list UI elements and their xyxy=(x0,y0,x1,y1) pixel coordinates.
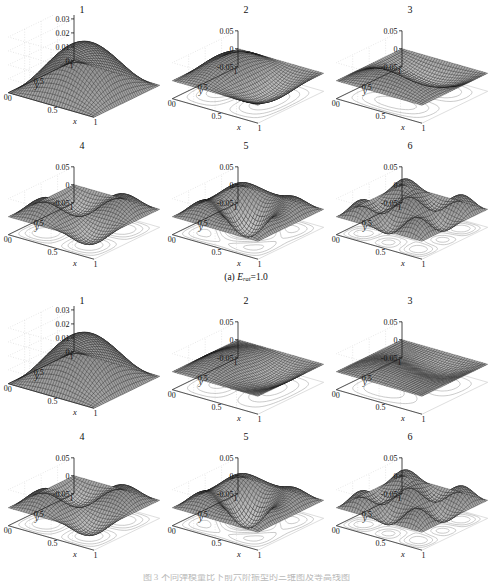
z-tick-label: 0.01 xyxy=(56,43,70,52)
bottom-caption-strip: 图 3 不同弹模量比下前六阶振型的三维图及等高线图 xyxy=(0,574,492,582)
x-tick-label: 1 xyxy=(258,415,262,424)
y-axis-label: y xyxy=(34,371,39,381)
z-tick-label: 0.05 xyxy=(384,27,398,36)
y-axis-label: y xyxy=(362,86,367,96)
y-tick-label: 1 xyxy=(70,61,74,70)
x-tick-label: 1 xyxy=(422,551,426,560)
subplot-b-6: 60.050-0.0510.5000.51yx xyxy=(328,431,492,566)
z-tick-label: 0.05 xyxy=(220,163,234,172)
x-tick-label: 1 xyxy=(422,260,426,269)
z-tick-label: 0.03 xyxy=(56,15,70,24)
y-axis-label: y xyxy=(198,222,203,232)
y-axis-label: y xyxy=(362,513,367,523)
z-tick-label: 0.01 xyxy=(56,334,70,343)
subplot-b-3: 30.050-0.0510.5000.51yx xyxy=(328,295,492,430)
x-tick-label: 0.5 xyxy=(212,539,222,548)
subplot-b-2: 20.050-0.0510.5000.51yx xyxy=(164,295,328,430)
surface-plot-canvas: 0.050-0.0510.5000.51yx xyxy=(164,306,328,430)
y-tick-label: 1 xyxy=(398,358,402,367)
z-tick-label: 0.05 xyxy=(220,454,234,463)
y-axis-label: y xyxy=(198,377,203,387)
z-tick-label: 0 xyxy=(66,472,70,481)
caption-subscript-a: rat xyxy=(243,275,251,282)
x-tick-label: 0.5 xyxy=(376,539,386,548)
z-tick-label: 0.05 xyxy=(384,318,398,327)
z-tick-label: 0 xyxy=(66,181,70,190)
surface-plot-canvas: 0.050-0.0510.5000.51yx xyxy=(328,442,492,566)
bottom-caption-text: 图 3 不同弹模量比下前六阶振型的三维图及等高线图 xyxy=(0,574,492,582)
x-tick-label: 0 xyxy=(336,527,340,536)
z-tick-label: 0 xyxy=(230,45,234,54)
x-tick-label: 1 xyxy=(258,260,262,269)
subplot-a-1: 10.040.030.020.01010.5000.51yx xyxy=(0,4,164,139)
x-tick-label: 0 xyxy=(172,391,176,400)
z-tick-label: -0.05 xyxy=(217,490,234,499)
x-tick-label: 0.5 xyxy=(212,403,222,412)
subplot-a-3: 30.050-0.0510.5000.51yx xyxy=(328,4,492,139)
y-tick-label: 1 xyxy=(398,67,402,76)
x-tick-label: 1 xyxy=(258,551,262,560)
x-tick-label: 0 xyxy=(172,527,176,536)
subplot-b-4: 40.050-0.0510.5000.51yx xyxy=(0,431,164,566)
y-tick-label: 1 xyxy=(398,203,402,212)
y-axis-label: y xyxy=(362,377,367,387)
x-tick-label: 1 xyxy=(422,415,426,424)
x-axis-label: x xyxy=(236,258,241,268)
y-axis-label: y xyxy=(198,86,203,96)
figure-panel-a: 10.040.030.020.01010.5000.51yx20.050-0.0… xyxy=(0,0,492,291)
x-tick-label: 0 xyxy=(336,391,340,400)
z-tick-label: -0.05 xyxy=(53,490,70,499)
x-tick-label: 1 xyxy=(94,551,98,560)
caption-prefix-a: (a) xyxy=(224,272,237,282)
y-tick-label: 1 xyxy=(234,67,238,76)
z-tick-label: 0.05 xyxy=(384,163,398,172)
y-tick-label: 1 xyxy=(70,494,74,503)
x-axis-label: x xyxy=(72,116,77,126)
x-axis-label: x xyxy=(400,258,405,268)
caption-value-a: =1.0 xyxy=(251,272,268,282)
y-tick-label: 1 xyxy=(234,494,238,503)
z-tick-label: 0 xyxy=(230,181,234,190)
y-axis-label: y xyxy=(34,80,39,90)
z-tick-label: 0.02 xyxy=(56,29,70,38)
z-tick-label: 0.05 xyxy=(56,163,70,172)
subplot-a-6: 60.050-0.0510.5000.51yx xyxy=(328,140,492,275)
x-axis-label: x xyxy=(236,549,241,559)
z-tick-label: 0 xyxy=(394,45,398,54)
z-tick-label: 0 xyxy=(394,472,398,481)
z-tick-label: -0.05 xyxy=(381,490,398,499)
surface-plot-canvas: 0.040.030.020.01010.5000.51yx xyxy=(0,15,164,139)
surface-plot-canvas: 0.050-0.0510.5000.51yx xyxy=(0,151,164,275)
x-tick-label: 0.5 xyxy=(212,112,222,121)
y-axis-label: y xyxy=(198,513,203,523)
z-tick-label: -0.05 xyxy=(381,63,398,72)
z-tick-label: 0.05 xyxy=(384,454,398,463)
x-tick-label: 1 xyxy=(94,118,98,127)
subplot-b-5: 50.050-0.0510.5000.51yx xyxy=(164,431,328,566)
x-axis-label: x xyxy=(400,413,405,423)
surface-plot-canvas: 0.050-0.0510.5000.51yx xyxy=(164,151,328,275)
x-tick-label: 0.5 xyxy=(376,403,386,412)
x-tick-label: 0.5 xyxy=(48,248,58,257)
x-tick-label: 0 xyxy=(336,236,340,245)
x-tick-label: 0 xyxy=(336,100,340,109)
z-tick-label: -0.05 xyxy=(217,354,234,363)
surface-plot-canvas: 0.050-0.0510.5000.51yx xyxy=(328,306,492,430)
x-tick-label: 0 xyxy=(8,527,12,536)
x-axis-label: x xyxy=(72,549,77,559)
subplot-grid-a: 10.040.030.020.01010.5000.51yx20.050-0.0… xyxy=(0,0,492,270)
x-tick-label: 1 xyxy=(258,124,262,133)
surface-plot-canvas: 0.050-0.0510.5000.51yx xyxy=(0,442,164,566)
y-tick-label: 1 xyxy=(398,494,402,503)
y-tick-label: 1 xyxy=(70,203,74,212)
y-tick-label: 1 xyxy=(234,358,238,367)
x-axis-label: x xyxy=(72,258,77,268)
x-axis-label: x xyxy=(400,549,405,559)
z-tick-label: -0.05 xyxy=(217,199,234,208)
z-tick-label: -0.05 xyxy=(381,199,398,208)
z-tick-label: 0.05 xyxy=(220,27,234,36)
z-tick-label: 0 xyxy=(230,336,234,345)
x-axis-label: x xyxy=(236,413,241,423)
z-tick-label: -0.05 xyxy=(217,63,234,72)
x-tick-label: 0.5 xyxy=(48,397,58,406)
